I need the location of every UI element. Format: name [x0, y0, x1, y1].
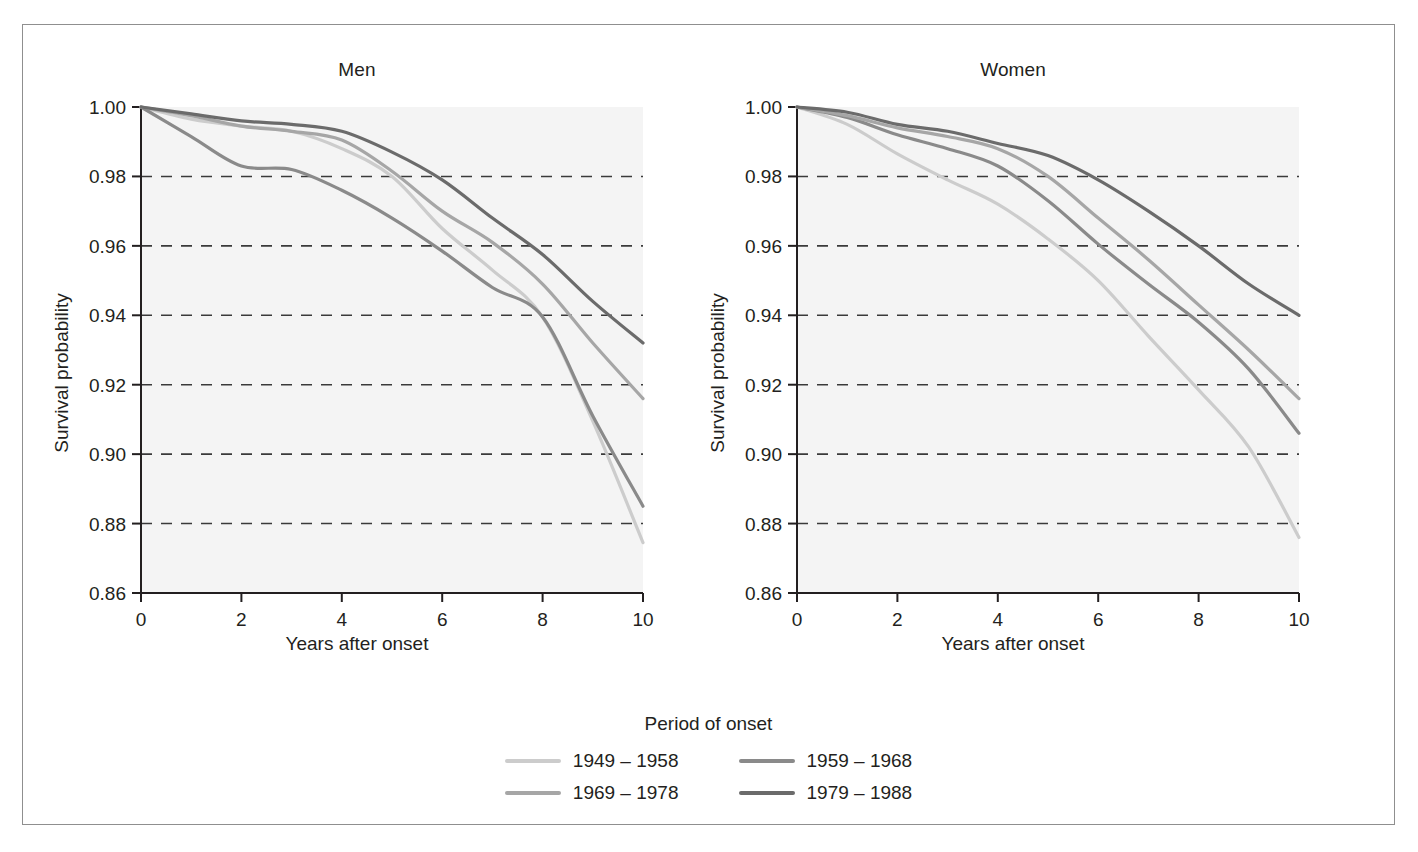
- panel-title-women: Women: [713, 59, 1313, 81]
- svg-text:0.88: 0.88: [745, 514, 782, 535]
- svg-text:2: 2: [236, 609, 247, 630]
- legend-item-1959-1968: 1959 – 1968: [739, 750, 913, 772]
- legend-item-label: 1959 – 1968: [807, 750, 913, 772]
- svg-text:10: 10: [1288, 609, 1309, 630]
- svg-text:0.92: 0.92: [745, 375, 782, 396]
- svg-text:0.88: 0.88: [89, 514, 126, 535]
- svg-text:6: 6: [1093, 609, 1104, 630]
- legend-item-1969-1978: 1969 – 1978: [505, 782, 679, 804]
- legend-item-label: 1979 – 1988: [807, 782, 913, 804]
- svg-text:8: 8: [1193, 609, 1204, 630]
- legend-item-1979-1988: 1979 – 1988: [739, 782, 913, 804]
- legend-item-1949-1958: 1949 – 1958: [505, 750, 679, 772]
- svg-text:4: 4: [337, 609, 348, 630]
- plot-area-women: Survival probability 0.860.880.900.920.9…: [713, 93, 1313, 653]
- chart-svg-women: 0.860.880.900.920.940.960.981.000246810: [713, 93, 1313, 653]
- svg-text:10: 10: [632, 609, 653, 630]
- x-axis-label-women: Years after onset: [713, 633, 1313, 655]
- legend-items: 1949 – 1958 1959 – 1968 1969 – 1978 1979…: [505, 750, 912, 804]
- svg-text:0: 0: [792, 609, 803, 630]
- legend-item-label: 1949 – 1958: [573, 750, 679, 772]
- legend-swatch-icon: [505, 791, 561, 795]
- panel-women: Women Survival probability 0.860.880.900…: [713, 59, 1313, 699]
- svg-text:0.96: 0.96: [745, 236, 782, 257]
- chart-svg-men: 0.860.880.900.920.940.960.981.000246810: [57, 93, 657, 653]
- legend-item-label: 1969 – 1978: [573, 782, 679, 804]
- svg-text:8: 8: [537, 609, 548, 630]
- svg-text:0.86: 0.86: [745, 583, 782, 604]
- svg-text:0.86: 0.86: [89, 583, 126, 604]
- svg-text:0.92: 0.92: [89, 375, 126, 396]
- svg-text:1.00: 1.00: [745, 97, 782, 118]
- legend-title: Period of onset: [23, 713, 1394, 735]
- x-axis-label-men: Years after onset: [57, 633, 657, 655]
- svg-text:6: 6: [437, 609, 448, 630]
- svg-text:0.90: 0.90: [745, 444, 782, 465]
- svg-text:0: 0: [136, 609, 147, 630]
- legend-swatch-icon: [739, 759, 795, 763]
- svg-text:0.90: 0.90: [89, 444, 126, 465]
- svg-text:0.96: 0.96: [89, 236, 126, 257]
- panel-men: Men Survival probability 0.860.880.900.9…: [57, 59, 657, 699]
- svg-text:2: 2: [892, 609, 903, 630]
- svg-text:4: 4: [993, 609, 1004, 630]
- svg-text:0.98: 0.98: [89, 166, 126, 187]
- panel-title-men: Men: [57, 59, 657, 81]
- legend-swatch-icon: [505, 759, 561, 763]
- svg-text:0.94: 0.94: [89, 305, 126, 326]
- svg-text:0.98: 0.98: [745, 166, 782, 187]
- figure-border: Men Survival probability 0.860.880.900.9…: [22, 24, 1395, 825]
- legend: Period of onset 1949 – 1958 1959 – 1968 …: [23, 713, 1394, 804]
- legend-swatch-icon: [739, 791, 795, 795]
- plot-area-men: Survival probability 0.860.880.900.920.9…: [57, 93, 657, 653]
- svg-text:1.00: 1.00: [89, 97, 126, 118]
- svg-text:0.94: 0.94: [745, 305, 782, 326]
